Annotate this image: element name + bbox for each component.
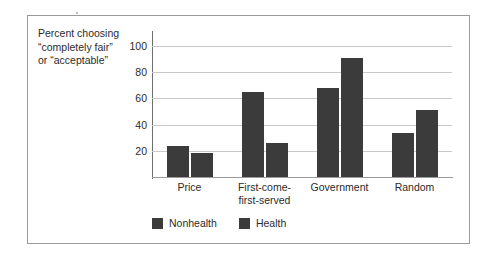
- category-label-random: Random: [365, 181, 465, 194]
- y-tick-label-20: 20: [135, 145, 147, 157]
- legend-item-nonhealth: Nonhealth: [152, 217, 217, 229]
- legend-swatch-health: [239, 218, 250, 229]
- legend-label-nonhealth: Nonhealth: [169, 217, 217, 229]
- y-tick-label-100: 100: [129, 40, 147, 52]
- plot-area: 20406080100: [152, 33, 452, 177]
- bar-health-price: [191, 153, 213, 177]
- gridline-100: [152, 46, 452, 47]
- gridline-60: [152, 98, 452, 99]
- bar-nonhealth-random: [392, 133, 414, 178]
- legend-swatch-nonhealth: [152, 218, 163, 229]
- gridline-80: [152, 72, 452, 73]
- bar-nonhealth-government: [317, 88, 339, 177]
- bar-nonhealth-first-come--first-served: [242, 92, 264, 177]
- bar-health-random: [416, 110, 438, 177]
- y-tick-label-40: 40: [135, 119, 147, 131]
- bar-health-first-come--first-served: [266, 143, 288, 177]
- bar-health-government: [341, 58, 363, 177]
- legend-item-health: Health: [239, 217, 286, 229]
- legend-label-health: Health: [256, 217, 286, 229]
- x-axis-line: [152, 177, 453, 178]
- bar-nonhealth-price: [167, 146, 189, 177]
- scan-artifact-speck: [76, 12, 78, 14]
- y-tick-label-60: 60: [135, 92, 147, 104]
- y-tick-label-80: 80: [135, 66, 147, 78]
- gridline-40: [152, 125, 452, 126]
- chart-legend: Nonhealth Health: [152, 217, 286, 229]
- chart-figure: Percent choosing “completely fair” or “a…: [0, 0, 498, 255]
